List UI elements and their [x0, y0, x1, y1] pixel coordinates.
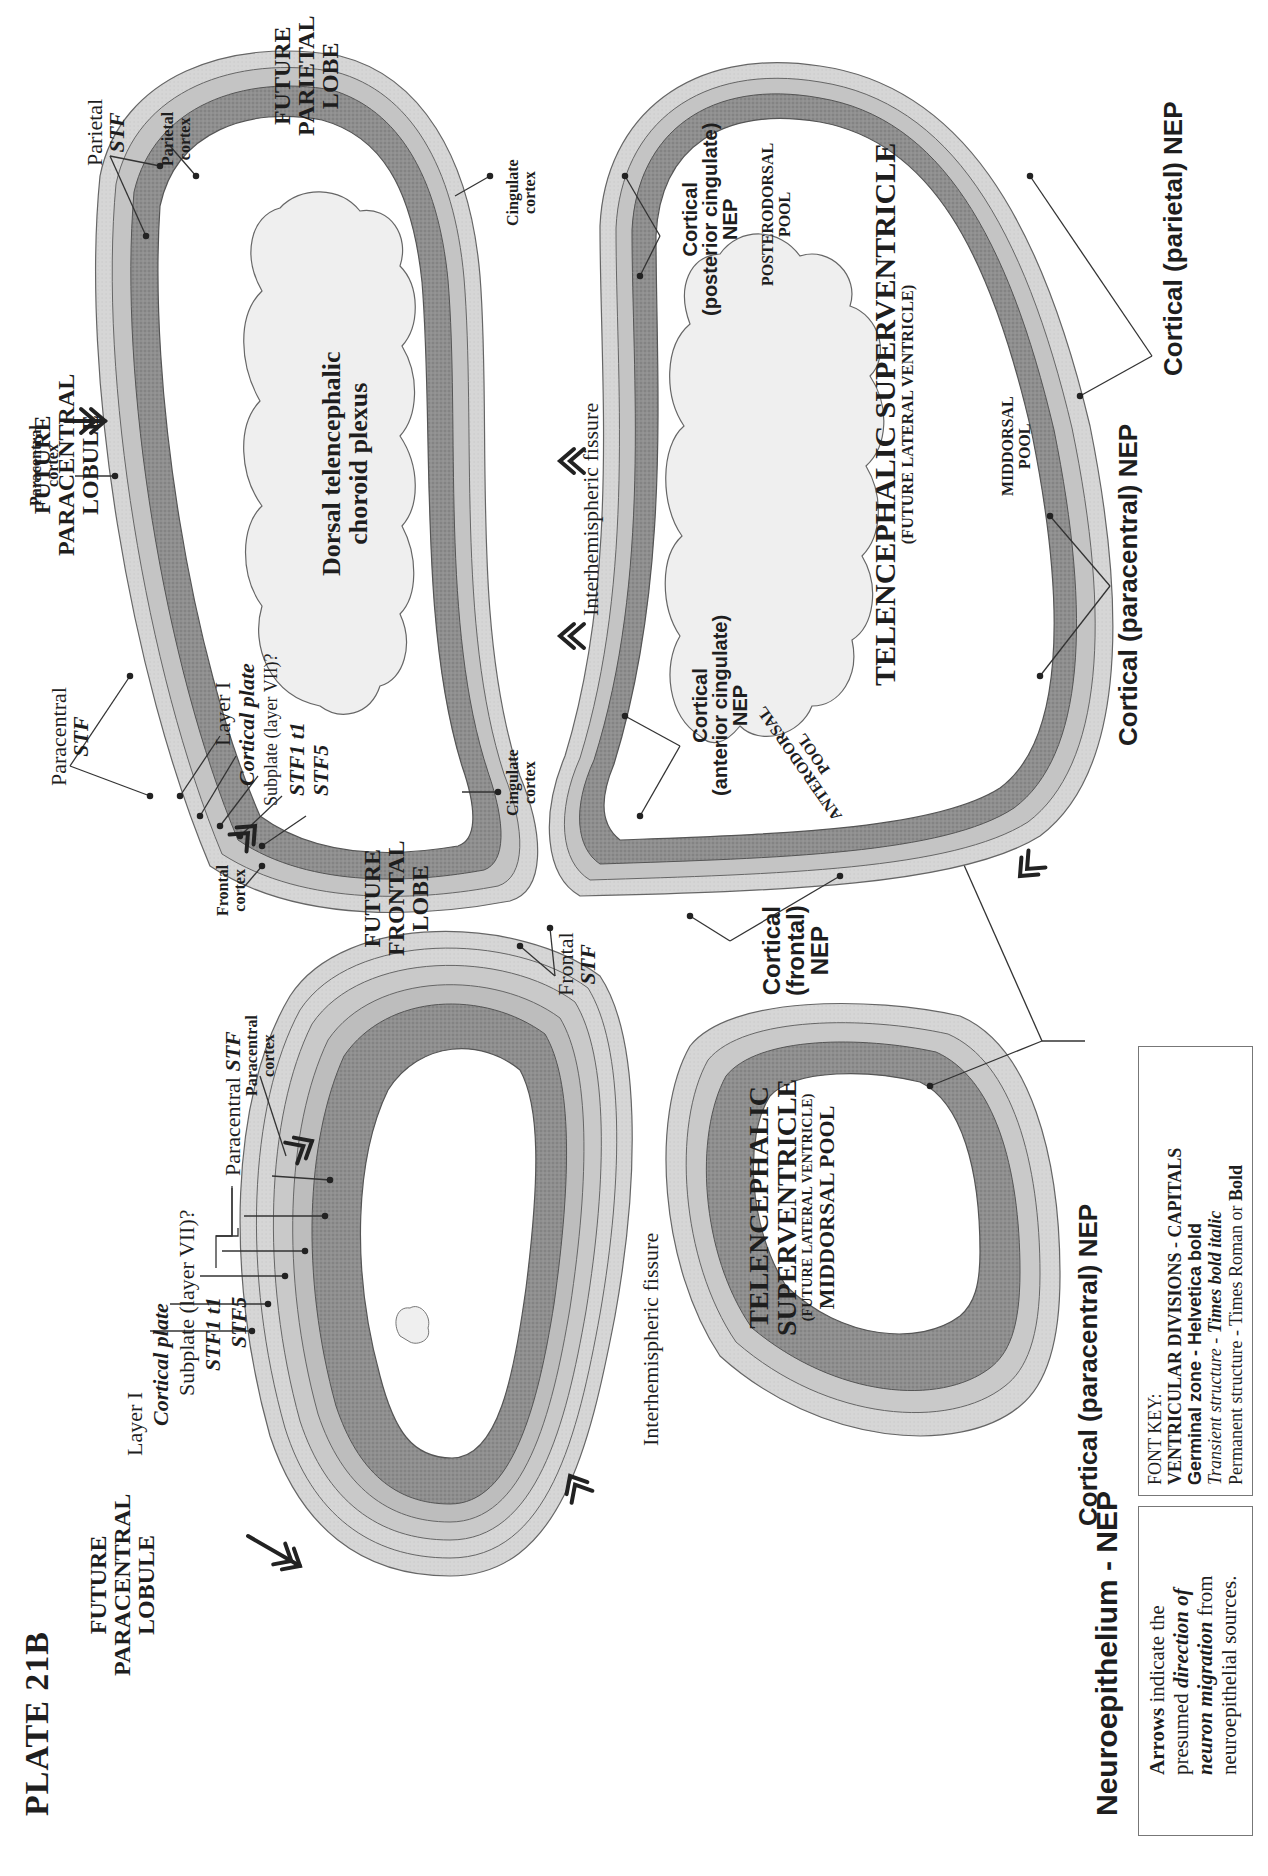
plate-stage: PLATE 21B FUTURE PARACENTRAL LOBULE Laye… [0, 0, 1268, 1876]
left-label-paracentral-stf: Paracentral STF [222, 1031, 244, 1176]
label-nep-parietal: Cortical (parietal) NEP [1160, 101, 1186, 376]
right-ventricle-label: TELENCEPHALIC SUPERVENTRICLE (FUTURE LAT… [870, 143, 916, 686]
left-upper-hemisphere [240, 931, 632, 1576]
label-subplate: Subplate (layer VII)? [262, 653, 280, 806]
legend-title: Neuroepithelium - NEP [1092, 1491, 1122, 1816]
label-frontal-stf: Frontal STF [555, 932, 599, 996]
label-paracentral-stf: Paracentral STF [48, 687, 92, 786]
region-future-parietal-lobe: FUTURE PARIETAL LOBE [270, 16, 342, 136]
legend-arrows-line1: Arrows indicate the [1145, 1517, 1169, 1775]
label-stf5: STF5 [310, 745, 332, 796]
label-interhemispheric-fissure: Interhemispheric fissure [580, 403, 602, 616]
label-middorsal-pool: MIDDORSAL POOL [1000, 396, 1034, 496]
left-label-stf5: STF5 [228, 1297, 250, 1348]
label-layer-i: Layer I [212, 682, 234, 746]
legend-font-key-box: FONT KEY: VENTRICULAR DIVISIONS - CAPITA… [1138, 1046, 1253, 1496]
label-cingulate-cortex-anterior: Cingulate cortex [505, 749, 539, 816]
label-cingulate-cortex-posterior: Cingulate cortex [505, 159, 539, 226]
left-label-layer-i: Layer I [124, 1392, 146, 1456]
label-frontal-cortex: Frontal cortex [215, 865, 249, 916]
legend-arrows-line2: presumed direction of [1169, 1517, 1193, 1775]
label-cortical-plate: Cortical plate [236, 663, 258, 786]
left-label-interhemispheric-fissure: Interhemispheric fissure [640, 1233, 662, 1446]
label-posterodorsal-pool: POSTERODORSAL POOL [760, 143, 794, 286]
region-future-frontal-lobe: FUTURE FRONTAL LOBE [360, 840, 432, 956]
left-region-paracentral-lobule: FUTURE PARACENTRAL LOBULE [86, 1494, 158, 1676]
font-key-title: FONT KEY: [1145, 1057, 1165, 1485]
label-nep-frontal: Cortical (frontal) NEP [760, 905, 832, 996]
font-key-line-ventricular: VENTRICULAR DIVISIONS - CAPITALS [1165, 1057, 1185, 1485]
label-nep-anterior-cingulate: Cortical (anterior cingulate) NEP [690, 615, 750, 796]
left-label-stf1-t1: STF1 t1 [202, 1297, 224, 1371]
legend-arrows-line3: neuron migration from [1193, 1517, 1217, 1775]
font-key-line-germinal: Germinal zone - Helvetica bold [1185, 1057, 1205, 1485]
label-parietal-cortex: Parietal cortex [160, 112, 194, 166]
left-label-cortical-plate: Cortical plate [150, 1303, 172, 1426]
label-paracentral-cortex: Paracentral cortex [28, 425, 62, 506]
label-parietal-stf: Parietal STF [84, 99, 128, 166]
font-key-line-permanent: Permanent structure - Times Roman or Bol… [1226, 1057, 1246, 1485]
label-nep-posterior-cingulate: Cortical (posterior cingulate) NEP [680, 123, 740, 316]
left-label-paracentral-cortex: Paracentral cortex [244, 1015, 278, 1096]
font-key-line-transient: Transient structure - Times bold italic [1205, 1057, 1225, 1485]
legend-arrows-box: Arrows indicate the presumed direction o… [1138, 1506, 1253, 1836]
left-lower-hemisphere [666, 1004, 1060, 1436]
left-label-subplate: Subplate (layer VII)? [176, 1209, 198, 1396]
label-dorsal-telencephalic-choroid-plexus: Dorsal telencephalic choroid plexus [318, 351, 373, 576]
anatomy-drawing [0, 0, 1268, 1876]
legend-arrows-line4: neuroepithelial sources. [1217, 1517, 1241, 1775]
left-ventricle-label: TELENCEPHALIC SUPERVENTRICLE (FUTURE LAT… [745, 1079, 838, 1336]
left-label-cortical-paracentral-nep: Cortical (paracentral) NEP [1075, 1204, 1101, 1526]
plate-title: PLATE 21B [20, 1631, 54, 1816]
label-nep-paracentral: Cortical (paracentral) NEP [1115, 424, 1141, 746]
label-stf1-t1: STF1 t1 [286, 722, 308, 796]
